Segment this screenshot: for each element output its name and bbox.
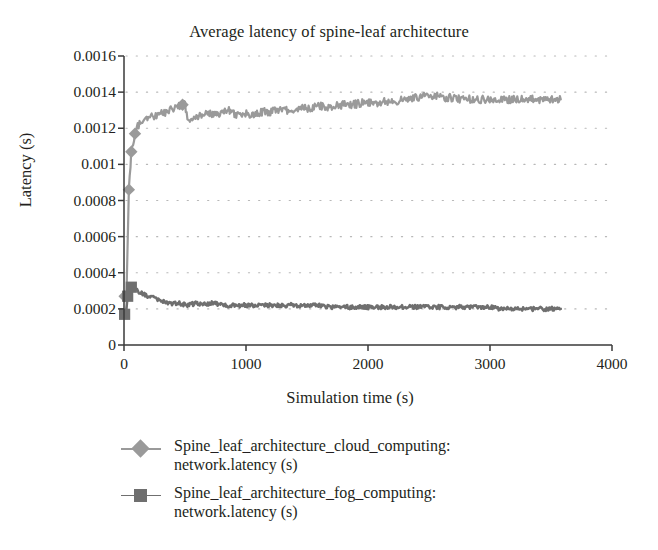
data-marker-diamond <box>129 127 141 139</box>
legend-marker-diamond-icon <box>131 439 149 457</box>
x-tick-label: 2000 <box>353 356 384 372</box>
series-line-cloud <box>125 93 561 297</box>
x-tick-label: 3000 <box>475 356 506 372</box>
legend-label-line2: network.latency (s) <box>174 456 450 475</box>
data-marker-diamond <box>125 146 137 158</box>
chart-figure: Average latency of spine-leaf architectu… <box>0 0 658 550</box>
chart-legend: Spine_leaf_architecture_cloud_computing:… <box>118 437 588 531</box>
y-tick-label: 0.0008 <box>32 193 116 209</box>
legend-item-fog[interactable]: Spine_leaf_architecture_fog_computing:ne… <box>118 484 588 522</box>
y-tick-label: 0.0002 <box>32 301 116 317</box>
y-tick-label: 0.0016 <box>32 48 116 64</box>
legend-marker-square-icon <box>134 489 147 502</box>
x-tick-label: 4000 <box>597 356 628 372</box>
x-axis-tick-labels: 01000200030004000 <box>0 356 658 378</box>
y-tick-label: 0 <box>32 337 116 353</box>
legend-item-cloud[interactable]: Spine_leaf_architecture_cloud_computing:… <box>118 437 588 475</box>
y-axis-title: Latency (s) <box>16 100 36 240</box>
legend-label-line2: network.latency (s) <box>174 503 436 522</box>
data-marker-square <box>126 282 137 293</box>
x-tick-label: 0 <box>120 356 128 372</box>
legend-label: Spine_leaf_architecture_cloud_computing:… <box>174 437 450 475</box>
legend-label-line1: Spine_leaf_architecture_cloud_computing: <box>174 437 450 456</box>
plot-area: 00.00020.00040.00060.00080.0010.00120.00… <box>0 0 658 420</box>
x-axis-title: Simulation time (s) <box>0 388 658 408</box>
y-tick-label: 0.0012 <box>32 120 116 136</box>
legend-key <box>118 438 164 459</box>
legend-key <box>118 485 164 506</box>
y-tick-label: 0.0006 <box>32 229 116 245</box>
x-tick-label: 1000 <box>231 356 262 372</box>
y-tick-label: 0.0014 <box>32 84 116 100</box>
legend-label-line1: Spine_leaf_architecture_fog_computing: <box>174 484 436 503</box>
y-tick-label: 0.0004 <box>32 265 116 281</box>
y-tick-label: 0.001 <box>32 156 116 172</box>
legend-label: Spine_leaf_architecture_fog_computing:ne… <box>174 484 436 522</box>
series-line-fog <box>125 288 561 315</box>
